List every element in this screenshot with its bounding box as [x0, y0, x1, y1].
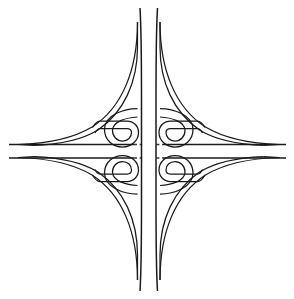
connector-ramp-northeast [160, 22, 280, 145]
connector-se-outer-edge [160, 158, 280, 281]
connector-ne-outer-edge [160, 22, 280, 145]
vertical-west-carriageway [140, 8, 142, 291]
connector-sw-outer-edge [18, 158, 138, 281]
loop-ramp-southwest [93, 156, 139, 195]
overpass-mask [142, 140, 156, 163]
connector-ramp-southeast [160, 157, 280, 280]
connector-ramp-northwest [18, 22, 138, 145]
loop-se-outer-edge [159, 156, 205, 195]
connector-ramp-southwest [18, 157, 138, 280]
loop-ramp-northeast [159, 109, 205, 148]
vertical-highway [140, 8, 158, 291]
loop-ramp-southeast [159, 156, 205, 195]
connector-nw-outer-edge [18, 22, 138, 145]
diagram-canvas: Cloverleaf Interchange Diagram [0, 0, 294, 299]
loop-nw-outer-edge [93, 109, 139, 148]
cloverleaf-interchange-drawing [0, 0, 294, 299]
loop-ne-outer-edge [159, 109, 205, 148]
loop-sw-outer-edge [93, 156, 139, 195]
vertical-east-carriageway [156, 8, 158, 291]
loop-ramp-northwest [93, 109, 139, 148]
